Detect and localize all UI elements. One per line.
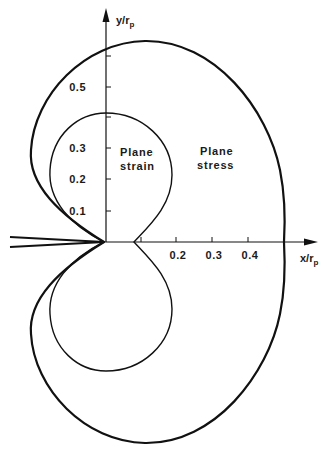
plane-strain-label-line2: strain (120, 160, 155, 172)
y-tick-label-0.5: 0.5 (69, 81, 86, 93)
plane-stress-label-line1: Plane (200, 145, 233, 157)
plane-strain-label-line1: Plane (120, 146, 153, 158)
y-axis-arrow-icon (103, 8, 110, 22)
plane-stress-label-line2: stress (197, 159, 234, 171)
x-tick-label-0.4: 0.4 (242, 249, 259, 261)
crack-wedge (10, 237, 104, 247)
y-tick-label-0.2: 0.2 (69, 173, 86, 185)
x-tick-label-0.2: 0.2 (170, 249, 187, 261)
plastic-zone-diagram: 0.1 0.2 0.3 0.5 0.2 0.3 0.4 y/rp x/rp Pl… (0, 0, 335, 455)
x-axis-title: x/rp (300, 252, 318, 267)
x-axis-arrow-icon (304, 239, 318, 246)
x-tick-label-0.3: 0.3 (206, 249, 223, 261)
y-tick-label-0.3: 0.3 (69, 142, 86, 154)
y-axis-title: y/rp (116, 14, 134, 29)
y-tick-label-0.1: 0.1 (69, 205, 86, 217)
y-axis (103, 8, 112, 242)
